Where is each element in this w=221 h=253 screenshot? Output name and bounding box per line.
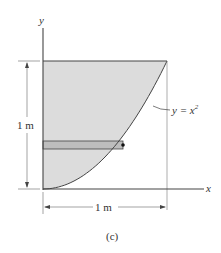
curve-leader xyxy=(153,106,170,110)
differential-strip xyxy=(43,141,123,149)
height-arrow-up xyxy=(25,62,29,68)
strip-point xyxy=(121,143,125,147)
shaded-region xyxy=(43,61,167,189)
x-axis-label: x xyxy=(205,182,211,194)
y-axis-label: y xyxy=(38,14,44,26)
height-arrow-down xyxy=(25,182,29,188)
width-dimension: 1 m xyxy=(95,201,112,213)
width-arrow-left xyxy=(44,205,50,209)
curve-label: y = x2 xyxy=(171,103,199,116)
height-dimension: 1 m xyxy=(17,119,34,131)
width-arrow-right xyxy=(160,205,166,209)
diagram: x y y = x2 1 m 1 m (c) xyxy=(0,0,221,253)
figure-caption: (c) xyxy=(106,230,119,243)
